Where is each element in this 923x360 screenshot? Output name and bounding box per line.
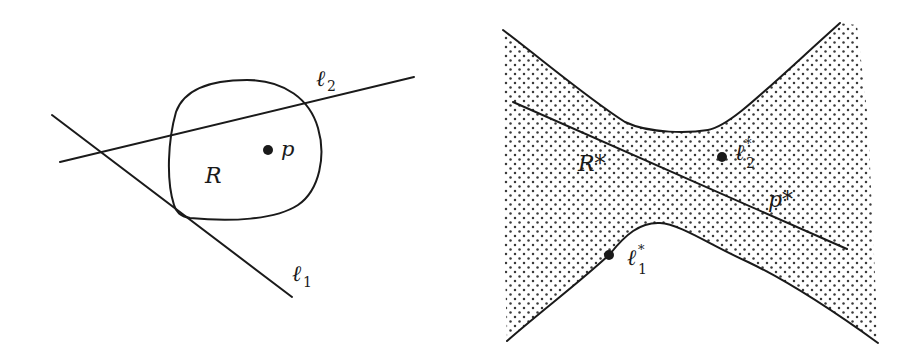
label-p-star: p*: [768, 187, 793, 212]
svg-text:2: 2: [327, 78, 336, 94]
dual-panel: R* p* ℓ * 2 ℓ * 1: [503, 23, 878, 343]
primal-panel: p R ℓ 2 ℓ 1: [52, 66, 414, 297]
label-l1: ℓ 1: [292, 261, 312, 290]
label-l1-star: ℓ * 1: [627, 242, 647, 277]
region-r-star-fill: [503, 23, 878, 343]
point-l1-star-icon: [604, 250, 614, 260]
line-l1: [52, 115, 292, 297]
svg-text:*: *: [745, 136, 752, 151]
svg-text:ℓ: ℓ: [292, 261, 302, 286]
svg-text:*: *: [638, 242, 645, 257]
svg-text:1: 1: [638, 261, 647, 277]
svg-text:ℓ: ℓ: [735, 140, 745, 165]
label-r-star: R*: [577, 151, 606, 176]
svg-text:2: 2: [746, 155, 755, 171]
svg-text:ℓ: ℓ: [316, 66, 326, 91]
region-r-outline: [169, 80, 321, 220]
label-l2: ℓ 2: [316, 66, 336, 94]
line-l2: [60, 77, 414, 162]
point-l2-star-icon: [717, 152, 727, 162]
svg-text:ℓ: ℓ: [627, 245, 637, 270]
duality-diagram: p R ℓ 2 ℓ 1 R* p* ℓ * 2: [0, 0, 923, 360]
label-r: R: [204, 163, 222, 188]
svg-text:1: 1: [303, 274, 312, 290]
label-p: p: [281, 137, 294, 161]
point-p-icon: [263, 145, 273, 155]
